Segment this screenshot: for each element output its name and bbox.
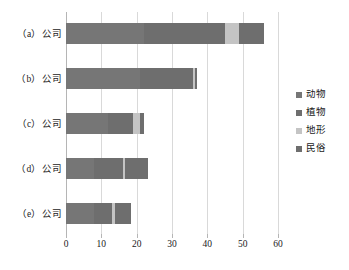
bar-row xyxy=(66,102,278,147)
stacked-bar-chart: （a）公司（b）公司（c）公司（d）公司（e）公司 0102030405060 … xyxy=(0,0,349,270)
legend-item[interactable]: 植物 xyxy=(296,104,348,121)
plot-area xyxy=(66,12,278,237)
x-axis-tick-label: 40 xyxy=(203,239,213,249)
legend-label: 地形 xyxy=(306,125,326,136)
y-axis-label: （b）公司 xyxy=(0,73,62,85)
x-axis-tick-mark xyxy=(207,234,208,238)
x-axis-tick-label: 10 xyxy=(97,239,107,249)
bar-segment[interactable] xyxy=(66,23,144,44)
bar-segment[interactable] xyxy=(133,113,140,134)
x-axis-tick-mark xyxy=(137,234,138,238)
bar-segment[interactable] xyxy=(115,203,131,224)
legend-swatch-icon xyxy=(296,110,302,116)
bar-row xyxy=(66,57,278,102)
y-axis-label: （d）公司 xyxy=(0,163,62,175)
bar-row xyxy=(66,192,278,237)
legend-label: 民俗 xyxy=(306,143,326,154)
bar-segment[interactable] xyxy=(66,158,94,179)
x-axis-tick-label: 60 xyxy=(273,239,283,249)
bar-segment[interactable] xyxy=(94,158,122,179)
bar-segment[interactable] xyxy=(94,203,112,224)
x-axis-tick-mark xyxy=(278,234,279,238)
stacked-bar[interactable] xyxy=(66,68,197,89)
stacked-bar[interactable] xyxy=(66,203,131,224)
legend-item[interactable]: 民俗 xyxy=(296,140,348,157)
gridline xyxy=(278,12,279,237)
bar-segment[interactable] xyxy=(225,23,239,44)
x-axis-tick-mark xyxy=(101,234,102,238)
y-axis-label: （a）公司 xyxy=(0,28,62,40)
y-axis-label: （c）公司 xyxy=(0,118,62,130)
chart-legend: 动物植物地形民俗 xyxy=(296,86,348,158)
legend-swatch-icon xyxy=(296,92,302,98)
bar-row xyxy=(66,12,278,57)
x-axis-tick-label: 30 xyxy=(167,239,177,249)
stacked-bar[interactable] xyxy=(66,113,144,134)
legend-item[interactable]: 动物 xyxy=(296,86,348,103)
stacked-bar[interactable] xyxy=(66,23,264,44)
bar-segment[interactable] xyxy=(108,113,133,134)
bar-segment[interactable] xyxy=(66,113,108,134)
y-axis-label: （e）公司 xyxy=(0,208,62,220)
legend-swatch-icon xyxy=(296,146,302,152)
bar-segment[interactable] xyxy=(140,113,144,134)
stacked-bar[interactable] xyxy=(66,158,148,179)
x-axis-tick-mark xyxy=(243,234,244,238)
bar-segment[interactable] xyxy=(66,203,94,224)
x-axis-tick-label: 20 xyxy=(132,239,142,249)
legend-item[interactable]: 地形 xyxy=(296,122,348,139)
bar-segment[interactable] xyxy=(239,23,264,44)
legend-swatch-icon xyxy=(296,128,302,134)
bar-segment[interactable] xyxy=(125,158,148,179)
x-axis-tick-mark xyxy=(172,234,173,238)
legend-label: 动物 xyxy=(306,89,326,100)
bar-segment[interactable] xyxy=(195,68,197,89)
legend-label: 植物 xyxy=(306,107,326,118)
bar-segment[interactable] xyxy=(66,68,140,89)
bar-segment[interactable] xyxy=(140,68,193,89)
bar-segment[interactable] xyxy=(144,23,225,44)
x-axis-tick-label: 50 xyxy=(238,239,248,249)
x-axis-tick-mark xyxy=(66,234,67,238)
x-axis-ticks: 0102030405060 xyxy=(66,239,278,257)
x-axis-tick-label: 0 xyxy=(64,239,69,249)
bar-row xyxy=(66,147,278,192)
